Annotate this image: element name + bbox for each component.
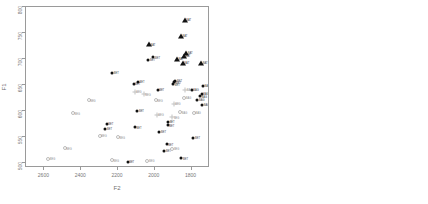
point-label: BAG <box>193 90 198 93</box>
figure-root: BEGBEGBEGBEGBEGBETBETBEGBEGBETBETBETBEGB… <box>0 0 428 204</box>
point-label: BAG <box>204 105 208 108</box>
point-label: BEG <box>50 159 55 162</box>
point-label: BET <box>108 124 113 127</box>
x-tick-label: 1800 <box>185 172 196 178</box>
point-label: BAG <box>182 113 187 116</box>
point-label: BET <box>170 122 175 125</box>
x-axis-title-left: F2 <box>113 185 120 191</box>
point-label: BEG <box>174 149 179 152</box>
point-label: BEG <box>157 101 162 104</box>
point-label: BET <box>129 162 134 165</box>
point-label: BAG <box>205 86 208 89</box>
point-label: BET <box>114 73 119 76</box>
point-label: BAT <box>183 36 188 39</box>
y-tick-label: 750 <box>17 32 23 40</box>
point-label: BET <box>137 128 142 131</box>
x-tick-label: 2000 <box>148 172 159 178</box>
point-label: BEG <box>158 115 163 118</box>
point-label: BAG <box>201 97 206 100</box>
y-tick-label: 650 <box>17 84 23 92</box>
y-tick-label: 500 <box>17 162 23 170</box>
point-label: BEG <box>101 136 106 139</box>
point-label: BET <box>177 81 182 84</box>
y-axis-title-left: F1 <box>1 83 7 90</box>
point-label: BET <box>183 159 188 162</box>
point-label: BEG <box>145 95 150 98</box>
x-tick-label: 2600 <box>38 172 49 178</box>
point-label: BET <box>150 60 155 63</box>
point-label: BET <box>195 138 200 141</box>
point-label: BET <box>155 58 160 61</box>
point-label: BAT <box>186 20 191 23</box>
y-tick-label: 550 <box>17 136 23 144</box>
point-label: BET <box>107 129 112 132</box>
scatter-panel-left: BEGBEGBEGBEGBEGBETBETBEGBEGBETBETBETBEGB… <box>0 0 214 204</box>
x-tick <box>80 167 81 170</box>
point-label: BAT <box>185 56 190 59</box>
point-label: BEG <box>120 138 125 141</box>
point-label: BEG <box>66 149 71 152</box>
plot-frame-left: BEGBEGBEGBEGBEGBETBETBEGBEGBETBETBETBEGB… <box>25 6 209 167</box>
point-label: BAT <box>203 63 208 66</box>
point-label: BEG <box>174 118 179 121</box>
x-tick-label: 2400 <box>75 172 86 178</box>
point-label: BAT <box>151 45 156 48</box>
point-label: BET <box>166 151 171 154</box>
point-label: BEG <box>75 114 80 117</box>
point-label: BET <box>159 90 164 93</box>
point-label: BAT <box>184 63 189 66</box>
point-label: BEG <box>175 104 180 107</box>
point-label: BET <box>139 82 144 85</box>
point-label: BAG <box>186 98 191 101</box>
x-tick-label: 2200 <box>111 172 122 178</box>
point-label: BAG <box>195 113 200 116</box>
plot-area-left: BEGBEGBEGBEGBEGBETBETBEGBEGBETBETBETBEGB… <box>26 7 208 166</box>
y-tick-label: 700 <box>17 58 23 66</box>
point-label: BAG <box>203 94 208 97</box>
point-label: BET <box>139 111 144 114</box>
x-tick <box>154 167 155 170</box>
x-tick <box>117 167 118 170</box>
x-tick <box>43 167 44 170</box>
scatter-panel-right: BEGBETBAGBAT 230022002100200019001800560… <box>214 0 428 204</box>
y-tick-label: 600 <box>17 110 23 118</box>
point-label: BEG <box>114 161 119 164</box>
y-tick-label: 800 <box>17 6 23 14</box>
point-label: BET <box>161 132 166 135</box>
point-label: BAT <box>188 53 193 56</box>
x-tick <box>191 167 192 170</box>
point-label: BET <box>169 126 174 129</box>
point-label: BEG <box>149 161 154 164</box>
point-label: BEG <box>90 101 95 104</box>
